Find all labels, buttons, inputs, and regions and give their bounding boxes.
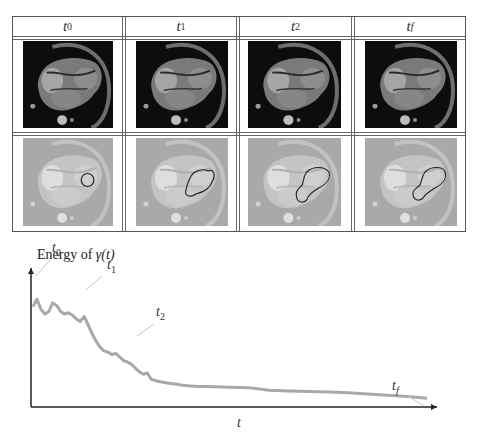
segmentation-t0: [23, 138, 113, 226]
column-t0: t0: [13, 17, 122, 231]
chart-plot: t0t1t2tft: [0, 240, 477, 435]
figure-table: t0 t1 t2 tf: [12, 16, 466, 232]
svg-text:tf: tf: [392, 378, 400, 396]
column-header: tf: [355, 17, 465, 36]
mri-frame-t0: [23, 41, 113, 128]
column-header: t0: [13, 17, 122, 36]
mri-frame-t1: [136, 41, 228, 128]
segmentation-tf: [365, 138, 457, 226]
segmentation-t1: [136, 138, 228, 226]
column-header: t2: [240, 17, 351, 36]
mri-frame-t2: [248, 41, 341, 128]
mri-frame-tf: [365, 41, 457, 128]
segmentation-t2: [248, 138, 341, 226]
y-axis-label: Energy of γ(t): [37, 247, 115, 263]
svg-text:t: t: [237, 415, 242, 430]
column-t2: t2: [240, 17, 351, 231]
column-header: t1: [126, 17, 236, 36]
svg-text:t2: t2: [156, 304, 165, 322]
energy-chart: Energy of γ(t) t0t1t2tft: [0, 240, 477, 435]
column-t1: t1: [126, 17, 236, 231]
column-tf: tf: [355, 17, 465, 231]
